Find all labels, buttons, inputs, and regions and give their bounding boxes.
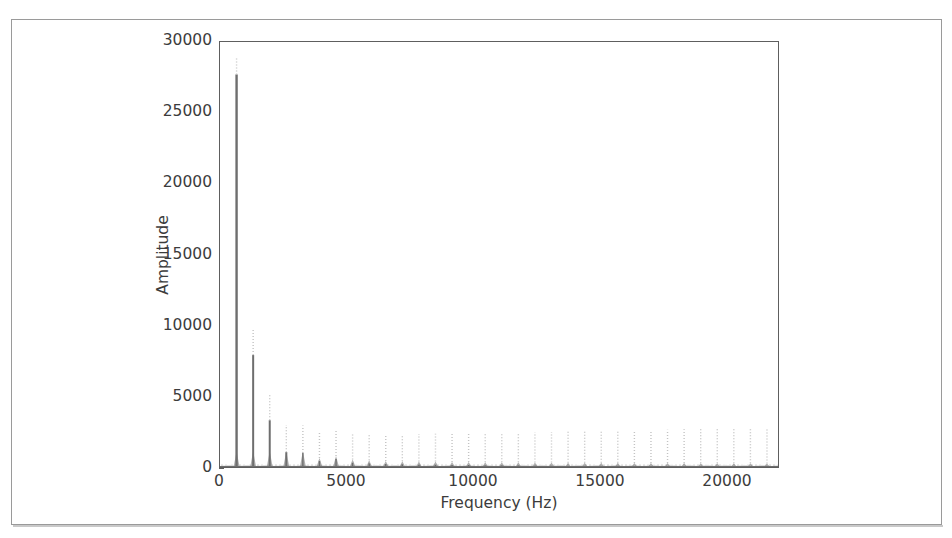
- ytick-label: 10000: [148, 318, 212, 334]
- xtick-label: 10000: [448, 474, 497, 490]
- spectrum-trace: [220, 42, 778, 467]
- plot-axes-frame: [219, 41, 779, 468]
- ytick-mark: [219, 468, 224, 469]
- xtick-label: 20000: [702, 474, 751, 490]
- xtick-label: 15000: [575, 474, 624, 490]
- ytick-label: 5000: [148, 389, 212, 405]
- spectrum-figure: 30000 25000 20000 15000 10000 5000 0 0 5…: [0, 0, 952, 538]
- x-axis-label: Frequency (Hz): [219, 494, 779, 512]
- y-axis-label: Amplitude: [154, 215, 172, 294]
- plot-surface: [220, 42, 778, 467]
- xtick-label: 0: [214, 474, 224, 490]
- ytick-label: 0: [148, 460, 212, 476]
- ytick-label: 20000: [148, 175, 212, 191]
- ytick-label: 25000: [148, 104, 212, 120]
- ytick-label: 30000: [148, 33, 212, 49]
- xtick-label: 5000: [326, 474, 365, 490]
